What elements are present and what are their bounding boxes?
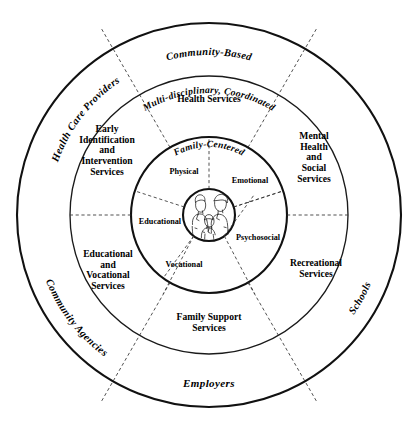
outer-label-schools: Schools	[346, 280, 373, 316]
services-banner-multidisciplinary: Multi-disciplinary, Coordinated	[140, 84, 278, 113]
services-ring-circle	[131, 137, 287, 293]
outer-label-community-agencies: Community Agencies	[44, 277, 110, 358]
concentric-services-diagram: Community-Based Health Care Providers Co…	[0, 0, 417, 433]
core-circle	[183, 189, 235, 241]
outer-ring-circle	[17, 23, 401, 407]
family-illustration-icon	[192, 194, 228, 239]
diagram-canvas: Community-Based Health Care Providers Co…	[0, 0, 417, 433]
outer-label-community-based: Community-Based	[165, 46, 254, 63]
